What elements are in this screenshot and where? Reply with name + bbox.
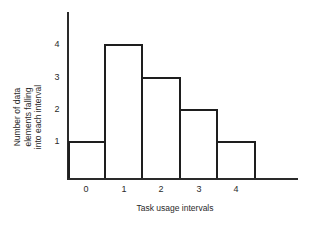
y-axis-label: Number of data elements falling into eac…	[8, 82, 48, 152]
bar-interval-0	[68, 141, 106, 178]
y-axis-label-line-3: into each interval	[33, 85, 44, 149]
x-tick-4: 4	[226, 184, 246, 194]
y-tick-4: 4	[52, 39, 62, 49]
x-tick-3: 3	[189, 184, 209, 194]
x-tick-2: 2	[151, 184, 171, 194]
y-tick-1: 1	[52, 136, 62, 146]
y-axis-label-line-2: elements falling	[23, 85, 34, 149]
histogram-chart: 1 2 3 4 0 1 2 3 4 Task usage intervals N…	[0, 0, 312, 225]
bar-interval-4	[216, 141, 256, 178]
bar-interval-3	[179, 109, 218, 178]
x-axis-label: Task usage intervals	[110, 203, 240, 213]
y-tick-2: 2	[52, 104, 62, 114]
x-axis	[67, 178, 298, 180]
x-tick-1: 1	[114, 184, 134, 194]
bar-interval-2	[141, 77, 181, 178]
y-axis-label-line-1: Number of data	[12, 85, 23, 149]
bar-interval-1	[104, 44, 143, 178]
x-tick-0: 0	[76, 184, 96, 194]
y-tick-3: 3	[52, 72, 62, 82]
